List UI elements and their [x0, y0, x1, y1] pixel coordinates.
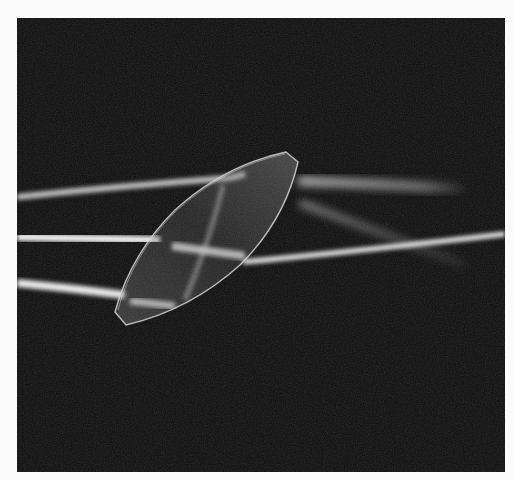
lens-photo: Biconvex lens refracting three parallel … [17, 18, 505, 472]
photo-frame: Biconvex lens refracting three parallel … [0, 0, 513, 480]
lens-photo-graphic [17, 18, 505, 472]
